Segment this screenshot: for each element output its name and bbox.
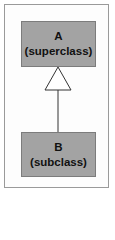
subclass-name: B bbox=[54, 140, 62, 155]
hollow-triangle-icon bbox=[45, 67, 71, 90]
subclass-box: B (subclass) bbox=[21, 132, 96, 177]
subclass-role: (subclass) bbox=[30, 155, 87, 170]
